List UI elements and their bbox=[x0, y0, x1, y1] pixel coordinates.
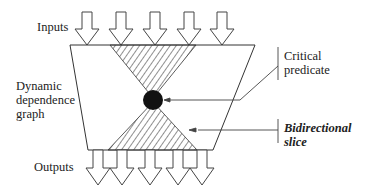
critical-predicate-label-line1: Critical bbox=[284, 49, 322, 63]
input-arrow-icon bbox=[75, 12, 99, 45]
input-arrow-icon bbox=[177, 12, 201, 45]
input-arrow-icon bbox=[143, 12, 167, 45]
inputs-label: Inputs bbox=[37, 20, 68, 34]
critical-predicate-label-line2: predicate bbox=[284, 63, 330, 77]
input-arrow-icon bbox=[210, 12, 234, 45]
graph-label-line3: graph bbox=[16, 107, 44, 121]
bidirectional-slice-label-line1: Bidirectional bbox=[284, 121, 351, 135]
critical-predicate-node bbox=[143, 90, 163, 110]
output-arrow-icon bbox=[166, 150, 190, 185]
output-arrows bbox=[86, 150, 214, 185]
output-arrow-icon bbox=[138, 150, 162, 185]
output-arrow-icon bbox=[110, 150, 134, 185]
graph-label-line1: Dynamic bbox=[16, 79, 62, 93]
bidirectional-slice-label-line2: slice bbox=[284, 135, 307, 149]
graph-label-line2: dependence bbox=[16, 93, 75, 107]
output-arrow-icon bbox=[86, 150, 110, 185]
input-arrows bbox=[75, 12, 234, 45]
output-arrow-icon bbox=[190, 150, 214, 185]
outputs-label: Outputs bbox=[34, 160, 74, 174]
input-arrow-icon bbox=[109, 12, 133, 45]
